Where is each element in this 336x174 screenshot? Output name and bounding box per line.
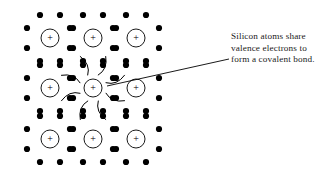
lattice-diagram: +++++++++ [0, 0, 336, 174]
valence-electron-dot [156, 95, 162, 101]
valence-electron-dot [143, 62, 149, 68]
valence-electron-dot [24, 95, 30, 101]
atom-top-right: + [127, 29, 145, 47]
valence-electron-dot [37, 12, 43, 18]
valence-electron-dot [110, 75, 116, 81]
valence-electron-dot [67, 25, 73, 31]
valence-electron-dot [143, 12, 149, 18]
valence-electron-dot [24, 75, 30, 81]
valence-electron-dot [123, 159, 129, 165]
valence-electron-dot [110, 95, 116, 101]
valence-electron-dot [57, 12, 63, 18]
valence-electron-dot [156, 45, 162, 51]
nucleus-charge-symbol: + [133, 133, 139, 144]
annotation-line-2: valence electrons to [231, 43, 335, 55]
valence-electron-dot [57, 159, 63, 165]
valence-electron-dot [110, 126, 116, 132]
atom-center: + [84, 79, 102, 97]
valence-electron-dot [80, 159, 86, 165]
nucleus-charge-symbol: + [47, 133, 53, 144]
valence-electron-dot [156, 146, 162, 152]
valence-electron-dot [24, 25, 30, 31]
nucleus-charge-symbol: + [90, 82, 96, 93]
valence-electron-dot [156, 75, 162, 81]
valence-electron-dot [80, 113, 86, 119]
valence-electron-dot [143, 113, 149, 119]
atom-top-left: + [41, 29, 59, 47]
atom-bottom-right: + [127, 130, 145, 148]
valence-electron-dot [37, 113, 43, 119]
valence-electron-dot [123, 12, 129, 18]
valence-electron-dot [100, 12, 106, 18]
valence-electron-dot [156, 126, 162, 132]
valence-electron-dot [110, 146, 116, 152]
annotation-line-1: Silicon atoms share [231, 31, 335, 43]
valence-electron-dot [67, 45, 73, 51]
valence-electron-dot [24, 45, 30, 51]
silicon-atoms-group: +++++++++ [24, 12, 162, 165]
nucleus-charge-symbol: + [90, 133, 96, 144]
valence-electron-dot [110, 45, 116, 51]
annotation-text: Silicon atoms share valence electrons to… [231, 31, 335, 66]
valence-electron-dot [80, 62, 86, 68]
annotation-line-3: form a covalent bond. [231, 54, 335, 66]
valence-electron-dot [67, 146, 73, 152]
atom-middle-left: + [41, 79, 59, 97]
valence-electron-dot [24, 146, 30, 152]
valence-electron-dot [80, 12, 86, 18]
valence-electron-dot [100, 62, 106, 68]
valence-electron-dot [123, 113, 129, 119]
silicon-covalent-bond-figure: +++++++++ Silicon atoms share valence el… [0, 0, 336, 174]
valence-electron-dot [123, 62, 129, 68]
nucleus-charge-symbol: + [133, 32, 139, 43]
atom-top-center: + [84, 29, 102, 47]
nucleus-charge-symbol: + [47, 82, 53, 93]
valence-electron-dot [37, 62, 43, 68]
valence-electron-dot [24, 126, 30, 132]
nucleus-charge-symbol: + [90, 32, 96, 43]
valence-electron-dot [100, 113, 106, 119]
nucleus-charge-symbol: + [47, 32, 53, 43]
valence-electron-dot [156, 25, 162, 31]
valence-electron-dot [37, 159, 43, 165]
valence-electron-dot [57, 113, 63, 119]
atom-bottom-center: + [84, 130, 102, 148]
valence-electron-dot [67, 95, 73, 101]
valence-electron-dot [67, 126, 73, 132]
valence-electron-dot [100, 159, 106, 165]
atom-middle-right: + [127, 79, 145, 97]
valence-electron-dot [110, 25, 116, 31]
valence-electron-dot [57, 62, 63, 68]
atom-bottom-left: + [41, 130, 59, 148]
valence-electron-dot [143, 159, 149, 165]
valence-electron-dot [67, 75, 73, 81]
nucleus-charge-symbol: + [133, 82, 139, 93]
